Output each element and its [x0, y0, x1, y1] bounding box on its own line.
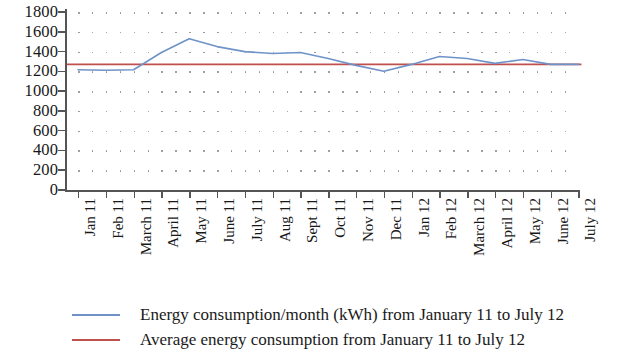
x-axis-tick — [245, 190, 246, 198]
y-axis-tick — [58, 169, 66, 171]
legend-swatch-energy-consumption — [72, 314, 120, 316]
x-tick-label: April 11 — [166, 198, 181, 248]
x-axis-tick — [134, 190, 135, 198]
energy-consumption-line — [78, 39, 578, 72]
x-tick-label: Sept 11 — [305, 198, 320, 243]
y-axis-tick — [58, 189, 66, 191]
y-axis-tick — [58, 11, 66, 13]
x-tick-label: Feb 12 — [444, 198, 459, 239]
x-axis-tick — [551, 190, 552, 198]
x-axis-tick — [439, 190, 440, 198]
x-tick-label: June 12 — [556, 198, 571, 244]
x-tick-label: Aug 11 — [278, 198, 293, 242]
x-axis-tick — [412, 190, 413, 198]
x-tick-label: March 12 — [472, 198, 487, 256]
x-tick-label: Oct 11 — [333, 198, 348, 238]
x-axis-tick — [189, 190, 190, 198]
x-tick-label: Dec 11 — [389, 198, 404, 240]
x-axis-tick — [495, 190, 496, 198]
y-axis-tick — [58, 51, 66, 53]
y-axis-tick — [58, 31, 66, 33]
x-axis-tick — [106, 190, 107, 198]
x-axis-tick — [217, 190, 218, 198]
x-axis-tick — [356, 190, 357, 198]
x-tick-label: May 11 — [194, 198, 209, 244]
x-tick-label: June 11 — [222, 198, 237, 244]
x-axis-tick — [384, 190, 385, 198]
y-axis-tick — [58, 150, 66, 152]
x-tick-label: July 12 — [583, 198, 598, 242]
y-axis-tick — [58, 130, 66, 132]
x-axis-tick — [273, 190, 274, 198]
plot-area: 020040060080010001200140016001800 — [0, 0, 644, 200]
x-tick-label: July 11 — [250, 198, 265, 241]
x-axis-tick — [78, 190, 79, 198]
chart-legend: Energy consumption/month (kWh) from Janu… — [0, 302, 644, 352]
x-axis-tick — [300, 190, 301, 198]
y-axis-tick — [58, 110, 66, 112]
series-layer — [0, 0, 644, 200]
legend-item-average-consumption: Average energy consumption from January … — [0, 327, 644, 352]
x-tick-label: May 12 — [528, 198, 543, 244]
legend-label-average-consumption: Average energy consumption from January … — [140, 330, 525, 350]
x-axis-tick — [161, 190, 162, 198]
x-tick-label: Jan 12 — [417, 198, 432, 237]
legend-item-energy-consumption: Energy consumption/month (kWh) from Janu… — [0, 302, 644, 327]
x-tick-label: Nov 11 — [361, 198, 376, 242]
x-axis-tick — [523, 190, 524, 198]
x-tick-label: April 12 — [500, 198, 515, 248]
x-axis-tick — [578, 190, 579, 198]
x-axis-tick — [328, 190, 329, 198]
x-axis-tick — [467, 190, 468, 198]
y-axis-tick — [58, 90, 66, 92]
y-axis-tick — [58, 71, 66, 73]
x-tick-label: Jan 11 — [83, 198, 98, 236]
x-tick-label: Feb 11 — [111, 198, 126, 239]
legend-swatch-average-consumption — [72, 339, 120, 341]
legend-label-energy-consumption: Energy consumption/month (kWh) from Janu… — [140, 305, 564, 325]
energy-consumption-chart: 020040060080010001200140016001800 Jan 11… — [0, 0, 644, 359]
x-tick-label: March 11 — [139, 198, 154, 255]
x-axis-labels: Jan 11Feb 11March 11April 11May 11June 1… — [0, 198, 644, 293]
